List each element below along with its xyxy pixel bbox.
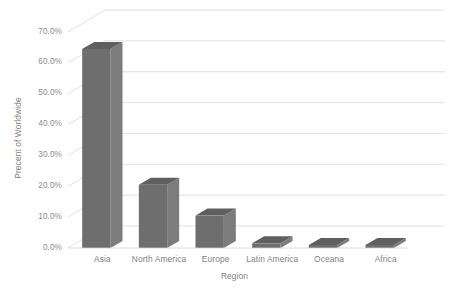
bar-oceana[interactable] [309,238,349,248]
y-tick-label: 60.0% [38,57,62,66]
bar-north-america[interactable] [139,178,179,248]
bar-latin-america[interactable] [252,236,292,248]
x-tick-label-africa: Africa [343,254,429,264]
y-tick-label: 0.0% [43,243,62,252]
x-axis-title: Region [0,271,469,281]
bar-africa[interactable] [366,238,406,248]
y-tick-label: 30.0% [38,150,62,159]
chart-plot-area [0,0,469,294]
y-axis-title: Precent of Worldwide [13,73,23,203]
y-tick-label: 20.0% [38,181,62,190]
y-tick-label: 10.0% [38,212,62,221]
bar-europe[interactable] [196,209,236,248]
column-chart-3d: Precent of Worldwide Region 0.0%10.0%20.… [0,0,469,294]
y-tick-label: 70.0% [38,27,62,36]
y-tick-label: 40.0% [38,119,62,128]
y-tick-label: 50.0% [38,88,62,97]
bar-asia[interactable] [82,42,122,248]
